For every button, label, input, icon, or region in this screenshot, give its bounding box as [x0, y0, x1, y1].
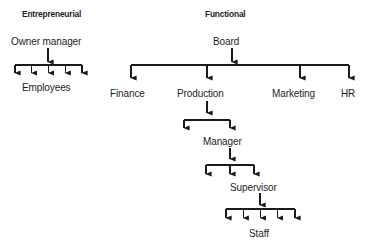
node-employees: Employees [22, 82, 70, 93]
node-finance: Finance [110, 88, 145, 99]
node-staff: Staff [249, 228, 269, 239]
edge-owner-manager-to-employees [15, 48, 82, 73]
node-hr: HR [341, 88, 355, 99]
edge-production-to-manager [184, 101, 230, 128]
edge-supervisor-to-staff [226, 193, 295, 218]
edge-board-to-departments [131, 48, 349, 78]
node-manager: Manager [203, 136, 242, 147]
chart-title-entrepreneurial: Entrepreneurial [22, 9, 81, 19]
node-production: Production [177, 88, 224, 99]
org-chart-figure: Entrepreneurial Owner manager Employees … [0, 0, 374, 243]
node-board: Board [213, 36, 239, 47]
node-owner-manager: Owner manager [11, 36, 81, 47]
node-marketing: Marketing [272, 88, 315, 99]
edge-manager-to-supervisor [206, 148, 254, 174]
node-supervisor: Supervisor [230, 182, 277, 193]
chart-title-functional: Functional [205, 9, 246, 19]
